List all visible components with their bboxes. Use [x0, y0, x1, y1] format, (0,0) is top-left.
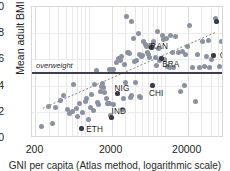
data-point	[91, 108, 96, 113]
data-point	[182, 83, 187, 88]
data-point	[200, 39, 205, 44]
data-point	[206, 38, 211, 43]
data-point	[140, 53, 145, 58]
bmi-gni-scatter-chart: Mean adult BMI 202224262830 USAGERIRANBR…	[0, 0, 230, 171]
data-point	[204, 54, 209, 59]
data-point	[86, 117, 91, 122]
point-label-ger: GER	[220, 51, 223, 60]
point-label-bra: BRA	[162, 60, 179, 69]
data-point	[121, 96, 126, 101]
y-tick-22: 22	[0, 106, 4, 116]
data-point	[178, 89, 183, 94]
y-tick-30: 30	[0, 1, 4, 11]
data-point	[124, 14, 129, 19]
y-tick-24: 24	[0, 80, 4, 90]
plot-area: USAGERIRANBRANIGCHIINDETH	[31, 6, 223, 137]
y-axis-title: Mean adult BMI	[14, 0, 26, 88]
point-label-eth: ETH	[86, 125, 103, 134]
x-tick-200: 200	[5, 144, 65, 155]
data-point	[202, 64, 207, 69]
y-tick-28: 28	[0, 27, 4, 37]
data-point	[214, 19, 219, 24]
overweight-line-label: overweight	[35, 61, 74, 70]
data-point	[129, 93, 134, 98]
x-tick-2000: 2000	[81, 144, 141, 155]
x-tick-20000: 20000	[157, 144, 217, 155]
point-label-ind: IND	[112, 107, 126, 116]
data-point	[207, 65, 212, 70]
data-point	[127, 51, 132, 56]
y-tick-26: 26	[0, 53, 4, 63]
data-point	[138, 95, 143, 100]
data-point	[89, 92, 94, 97]
data-point	[190, 65, 195, 70]
point-label-iran: IRAN	[148, 42, 168, 51]
x-axis-title: GNI per capita (Atlas method, logarithmi…	[0, 160, 230, 171]
data-point	[50, 121, 55, 126]
data-point	[170, 50, 175, 55]
data-point	[104, 96, 109, 101]
data-point	[219, 39, 223, 44]
data-point	[147, 55, 152, 60]
point-label-chi: CHI	[149, 89, 163, 98]
data-point	[217, 64, 222, 69]
y-tick-20: 20	[0, 132, 4, 142]
data-point	[155, 29, 160, 34]
overweight-reference-line	[32, 72, 223, 74]
point-label-nig: NIG	[115, 84, 130, 93]
data-point	[58, 98, 63, 103]
